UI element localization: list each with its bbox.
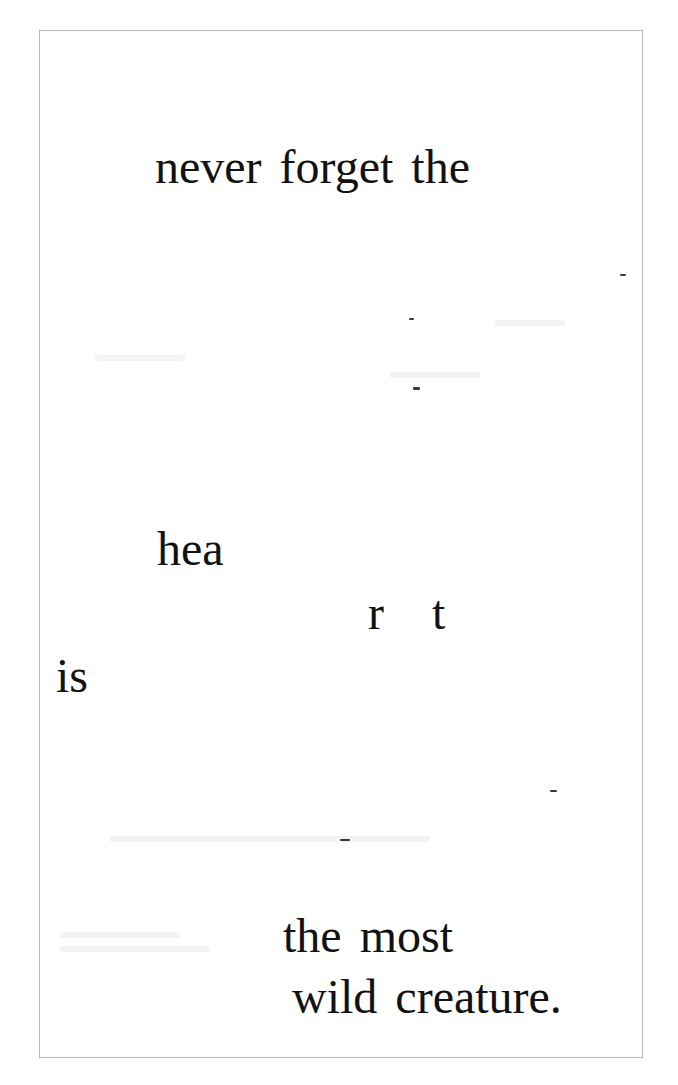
erased-text-trace — [495, 320, 565, 326]
erased-text-trace — [110, 836, 430, 842]
erased-text-trace — [60, 932, 180, 938]
ink-speck — [550, 790, 557, 792]
line-wild-creature: wild creature. — [292, 973, 562, 1021]
fragment-hea: hea — [157, 525, 224, 573]
erased-text-trace — [390, 372, 480, 378]
fragment-t: t — [432, 589, 445, 637]
fragment-r: r — [368, 589, 384, 637]
ink-speck — [413, 387, 420, 390]
line-the-most: the most — [283, 912, 453, 960]
ink-speck — [620, 274, 626, 276]
erased-text-trace — [60, 946, 210, 952]
line-never-forget-the: never forget the — [155, 143, 470, 191]
ink-speck — [409, 318, 414, 320]
erased-text-trace — [95, 355, 185, 361]
fragment-is: is — [56, 652, 88, 700]
ink-speck — [340, 839, 350, 841]
